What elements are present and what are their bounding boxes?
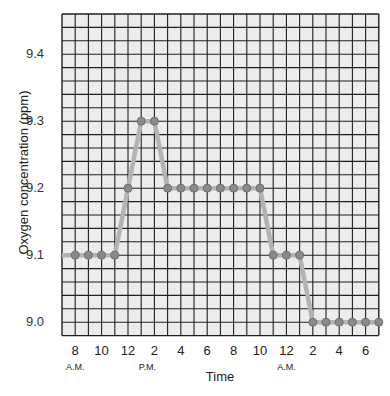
data-point [322, 318, 330, 326]
data-point [177, 184, 185, 192]
y-axis-label: Oxygen concentration (ppm) [16, 88, 31, 258]
data-point [124, 184, 132, 192]
y-tick-label: 9.3 [26, 113, 56, 128]
data-point [375, 318, 383, 326]
data-point [111, 251, 119, 259]
data-point [256, 184, 264, 192]
cropped-caption-fragment [150, 390, 390, 396]
y-tick-label: 9.4 [26, 46, 56, 61]
y-tick-label: 9.0 [26, 314, 56, 329]
data-point [150, 117, 158, 125]
data-point [243, 184, 251, 192]
data-point [362, 318, 370, 326]
data-point [309, 318, 317, 326]
data-point [348, 318, 356, 326]
x-period-label: P.M. [127, 362, 167, 372]
x-tick-label: 6 [351, 343, 381, 358]
data-point [296, 251, 304, 259]
data-point [98, 251, 106, 259]
data-point [216, 184, 224, 192]
y-tick-label: 9.1 [26, 247, 56, 262]
data-point [269, 251, 277, 259]
oxygen-concentration-chart: 9.09.19.29.39.4 8101224681012246A.M.P.M.… [0, 0, 390, 396]
y-tick-label: 9.2 [26, 180, 56, 195]
data-point [190, 184, 198, 192]
x-period-label: A.M. [55, 362, 95, 372]
data-point [137, 117, 145, 125]
data-point [164, 184, 172, 192]
data-point [84, 251, 92, 259]
data-point [282, 251, 290, 259]
data-point [335, 318, 343, 326]
plot-area [0, 0, 390, 396]
x-period-label: A.M. [266, 362, 306, 372]
x-axis-label: Time [190, 369, 250, 384]
data-point [71, 251, 79, 259]
data-point [203, 184, 211, 192]
data-point [230, 184, 238, 192]
